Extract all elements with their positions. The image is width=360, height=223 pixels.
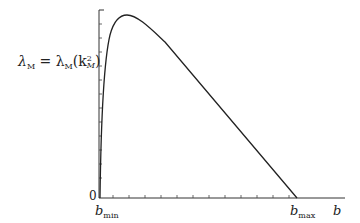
bmin-subscript: min <box>103 211 118 220</box>
x-tick-bmin: bmin <box>95 203 119 220</box>
subscript-m: M <box>27 62 35 71</box>
subscript-m-3: M <box>87 62 95 69</box>
k-superscript-subscript: 2M <box>87 55 95 69</box>
y-zero-label: 0 <box>89 189 97 203</box>
paren-k: (k <box>73 53 87 69</box>
chart-plot-area <box>0 0 360 223</box>
lambda-curve <box>100 15 297 198</box>
paren-close: ) <box>95 53 100 69</box>
equals-lambda: = λ <box>35 53 65 69</box>
bmax-subscript: max <box>298 211 315 220</box>
subscript-m-2: M <box>65 62 73 71</box>
x-tick-bmax: bmax <box>290 203 315 220</box>
x-axis-label: b <box>333 203 341 218</box>
lambda-symbol: λ <box>18 53 27 69</box>
y-axis-label: λM = λM(k2M) <box>18 53 100 71</box>
